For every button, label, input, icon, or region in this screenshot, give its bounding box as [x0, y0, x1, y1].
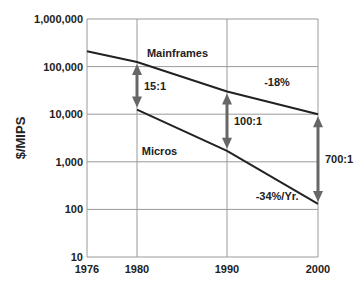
y-tick-label: 100 — [65, 203, 83, 215]
ratio-arrow-100-1 — [222, 93, 232, 148]
y-tick-label: 1,000 — [55, 156, 83, 168]
chart: 101001,00010,000100,0001,000,000 1976198… — [0, 0, 361, 290]
x-tick-label: 1990 — [215, 263, 239, 275]
x-axis-ticks: 1976198019902000 — [75, 263, 330, 275]
y-tick-label: 10 — [71, 251, 83, 263]
ratio-label: 100:1 — [234, 115, 262, 127]
ratio-arrow-700-1 — [313, 116, 323, 202]
y-tick-label: 1,000,000 — [34, 13, 83, 25]
ratio-label: 700:1 — [325, 153, 353, 165]
series-label: Micros — [142, 145, 177, 157]
y-axis-ticks: 101001,00010,000100,0001,000,000 — [34, 13, 83, 263]
series-lines — [87, 51, 318, 204]
x-tick-label: 1976 — [75, 263, 99, 275]
rate-label: -34%/Yr. — [256, 190, 299, 202]
series-label: Mainframes — [147, 47, 208, 59]
y-tick-label: 100,000 — [43, 61, 83, 73]
ratio-arrow-15-1 — [132, 64, 142, 108]
y-tick-label: 10,000 — [49, 108, 83, 120]
x-tick-label: 1980 — [125, 263, 149, 275]
x-tick-label: 2000 — [306, 263, 330, 275]
rate-label: -18% — [264, 76, 290, 88]
ratio-label: 15:1 — [144, 80, 166, 92]
y-axis-label: $/MIPS — [13, 116, 28, 159]
